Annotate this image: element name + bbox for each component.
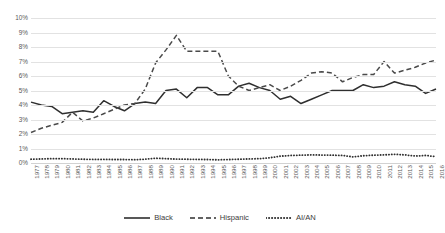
y-axis-tick-label: 10% <box>0 15 28 21</box>
legend-swatch-solid <box>124 214 150 222</box>
x-axis-tick-label: 2006 <box>335 165 341 179</box>
gridline <box>31 105 436 106</box>
x-axis: 1977197819791980198119821983198419851986… <box>31 165 436 205</box>
x-axis-tick-label: 1987 <box>137 165 143 179</box>
x-axis-tick-label: 2014 <box>418 165 424 179</box>
gridline <box>31 134 436 135</box>
x-axis-tick-label: 2013 <box>407 165 413 179</box>
y-axis-tick-label: 8% <box>0 44 28 50</box>
x-axis-tick-label: 2016 <box>439 165 445 179</box>
legend-label: Black <box>154 214 173 222</box>
x-axis-tick-label: 2009 <box>366 165 372 179</box>
y-axis-tick-label: 4% <box>0 102 28 108</box>
legend-swatch-dotted <box>266 214 292 222</box>
gridline <box>31 76 436 77</box>
legend-item-black[interactable]: Black <box>124 214 173 222</box>
y-axis-tick-label: 3% <box>0 116 28 122</box>
plot-area <box>31 18 436 163</box>
x-axis-tick-label: 1981 <box>75 165 81 179</box>
y-axis-tick-label: 1% <box>0 145 28 151</box>
x-axis-tick-label: 1979 <box>54 165 60 179</box>
gridline <box>31 18 436 19</box>
x-axis-tick-label: 2003 <box>304 165 310 179</box>
x-axis-tick-label: 2015 <box>428 165 434 179</box>
x-axis-tick-label: 1982 <box>86 165 92 179</box>
gridline <box>31 33 436 34</box>
series-line-hispanic <box>31 35 436 132</box>
x-axis-tick-label: 1992 <box>189 165 195 179</box>
x-axis-tick-label: 1985 <box>117 165 123 179</box>
x-axis-tick-label: 2001 <box>283 165 289 179</box>
chart-legend: BlackHispanicAI/AN <box>0 210 440 226</box>
x-axis-tick-label: 2007 <box>345 165 351 179</box>
x-axis-tick-label: 1977 <box>34 165 40 179</box>
y-axis-tick-label: 5% <box>0 87 28 93</box>
x-axis-tick-label: 1998 <box>252 165 258 179</box>
x-axis-tick-label: 2000 <box>272 165 278 179</box>
legend-label: AI/AN <box>296 214 316 222</box>
y-axis-tick-label: 2% <box>0 131 28 137</box>
gridline <box>31 149 436 150</box>
x-axis-tick-label: 2011 <box>387 165 393 178</box>
x-axis-tick-label: 1999 <box>262 165 268 179</box>
series-line-black <box>31 82 436 114</box>
series-line-ai-an <box>31 154 436 160</box>
x-axis-tick-label: 1984 <box>106 165 112 179</box>
x-axis-tick-label: 2010 <box>376 165 382 179</box>
x-axis-tick-label: 2004 <box>314 165 320 179</box>
gridline <box>31 62 436 63</box>
legend-item-hispanic[interactable]: Hispanic <box>190 214 249 222</box>
y-axis-tick-label: 7% <box>0 58 28 64</box>
y-axis: 0%1%2%3%4%5%6%7%8%9%10% <box>0 18 28 163</box>
legend-label: Hispanic <box>220 214 249 222</box>
x-axis-tick-label: 1989 <box>158 165 164 179</box>
x-axis-tick-label: 1991 <box>179 165 185 179</box>
gridline <box>31 91 436 92</box>
x-axis-tick-label: 1994 <box>210 165 216 179</box>
gridline <box>31 47 436 48</box>
y-axis-tick-label: 6% <box>0 73 28 79</box>
x-axis-tick-label: 1995 <box>221 165 227 179</box>
x-axis-tick-label: 1993 <box>200 165 206 179</box>
y-axis-tick-label: 0% <box>0 160 28 166</box>
x-axis-tick-label: 1978 <box>44 165 50 179</box>
x-axis-tick-label: 2008 <box>356 165 362 179</box>
x-axis-tick-label: 2002 <box>293 165 299 179</box>
legend-item-ai-an[interactable]: AI/AN <box>266 214 316 222</box>
x-axis-tick-label: 1997 <box>241 165 247 179</box>
x-axis-tick-label: 1983 <box>96 165 102 179</box>
x-axis-tick-label: 1980 <box>65 165 71 179</box>
x-axis-tick-label: 1986 <box>127 165 133 179</box>
x-axis-tick-label: 1988 <box>148 165 154 179</box>
gridline <box>31 120 436 121</box>
x-axis-tick-label: 1990 <box>169 165 175 179</box>
y-axis-tick-label: 9% <box>0 29 28 35</box>
legend-swatch-dashed <box>190 214 216 222</box>
x-axis-tick-label: 2005 <box>324 165 330 179</box>
x-axis-tick-label: 2012 <box>397 165 403 179</box>
x-axis-tick-label: 1996 <box>231 165 237 179</box>
